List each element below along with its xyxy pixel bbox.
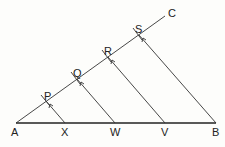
label-C: C [168,7,176,19]
ray-AC [16,16,165,123]
label-S: S [135,23,142,35]
label-X: X [61,126,69,138]
parallel-SB [139,35,216,123]
parallel-RV [108,57,165,123]
label-A: A [11,126,19,138]
geometry-diagram: A X W V B P Q R S C [0,0,225,147]
label-V: V [161,126,169,138]
label-B: B [212,126,219,138]
parallel-QW [77,79,115,123]
label-Q: Q [73,67,82,79]
label-R: R [104,45,112,57]
label-W: W [110,126,121,138]
arrow-mark-SB [142,38,146,42]
label-P: P [44,90,51,102]
